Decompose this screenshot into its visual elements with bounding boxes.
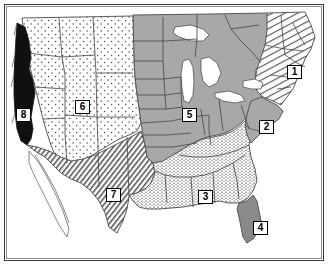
region-label-7[interactable]: 7 (106, 188, 121, 202)
region-label-4[interactable]: 4 (253, 221, 268, 235)
region-label-6[interactable]: 6 (75, 100, 90, 114)
map-frame: 1 2 3 4 5 6 7 8 (4, 4, 324, 261)
region-4-florida (237, 195, 261, 243)
region-label-8[interactable]: 8 (16, 108, 31, 122)
us-region-map (5, 5, 325, 262)
lake-michigan (181, 59, 194, 103)
region-label-1[interactable]: 1 (287, 65, 302, 79)
region-label-3[interactable]: 3 (198, 190, 213, 204)
region-label-5[interactable]: 5 (182, 108, 197, 122)
region-label-2[interactable]: 2 (259, 120, 274, 134)
map-screenshot: 1 2 3 4 5 6 7 8 (0, 0, 330, 267)
